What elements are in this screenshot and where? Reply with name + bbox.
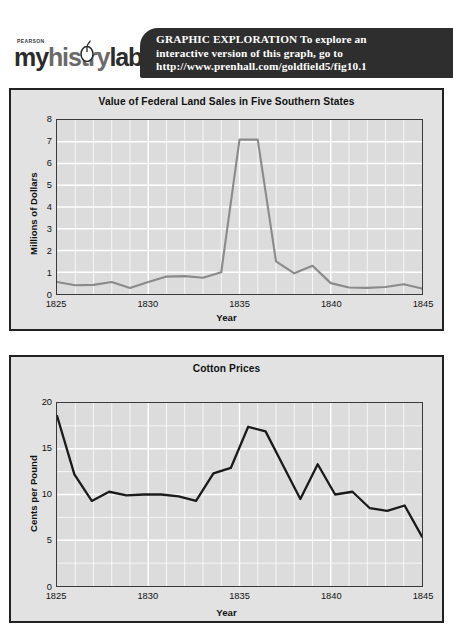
plot-canvas-land-sales <box>56 119 423 295</box>
plot-area-land-sales <box>56 119 423 295</box>
y-tick-label: 8 <box>18 115 52 124</box>
x-tick-label: 1830 <box>128 299 168 309</box>
y-tick-label: 10 <box>18 490 52 499</box>
x-tick-label: 1825 <box>36 299 76 309</box>
y-tick-label: 5 <box>18 181 52 190</box>
logo-my: my <box>14 43 48 71</box>
y-tick-label: 3 <box>18 225 52 234</box>
line-chart-svg-land-sales <box>57 120 422 294</box>
banner-line-1: GRAPHIC EXPLORATION To explore an <box>156 33 448 47</box>
x-tick-label: 1845 <box>403 299 443 309</box>
y-tick-label: 5 <box>18 536 52 545</box>
logo-lab: lab <box>109 43 142 71</box>
x-tick-label: 1835 <box>220 299 260 309</box>
x-tick-label: 1840 <box>311 591 351 601</box>
x-tick-label: 1825 <box>36 591 76 601</box>
header-banner-area: PEARSON myhistrylab ™ GRAPHIC EXPLORATIO… <box>0 0 453 88</box>
y-tick-label: 15 <box>18 444 52 453</box>
chart-panel-cotton-prices: Cotton Prices Cents per Pound 05101520 1… <box>9 355 444 623</box>
myhistorylab-logo: PEARSON myhistrylab ™ <box>10 38 150 76</box>
y-tick-label: 7 <box>18 137 52 146</box>
x-axis-label-cotton-prices: Year <box>11 607 442 618</box>
x-tick-label: 1840 <box>311 299 351 309</box>
plot-area-cotton-prices <box>56 402 423 587</box>
computer-mouse-icon <box>79 40 95 62</box>
y-tick-label: 1 <box>18 269 52 278</box>
line-chart-svg-cotton-prices <box>57 403 422 586</box>
y-tick-label: 4 <box>18 203 52 212</box>
banner-text: GRAPHIC EXPLORATION To explore an intera… <box>156 33 448 74</box>
x-tick-label: 1835 <box>220 591 260 601</box>
chart-title-cotton-prices: Cotton Prices <box>11 363 442 374</box>
y-tick-label: 6 <box>18 159 52 168</box>
x-tick-label: 1845 <box>403 591 443 601</box>
banner-line-2: interactive version of this graph, go to <box>156 47 448 61</box>
graphic-exploration-banner: GRAPHIC EXPLORATION To explore an intera… <box>140 28 453 78</box>
x-axis-label-land-sales: Year <box>11 312 442 323</box>
x-tick-label: 1830 <box>128 591 168 601</box>
banner-line-3[interactable]: http://www.prenhall.com/goldfield5/fig10… <box>156 60 448 74</box>
y-tick-label: 2 <box>18 247 52 256</box>
chart-title-land-sales: Value of Federal Land Sales in Five Sout… <box>11 96 442 107</box>
plot-canvas-cotton-prices <box>56 402 423 587</box>
y-tick-label: 20 <box>18 398 52 407</box>
chart-panel-land-sales: Value of Federal Land Sales in Five Sout… <box>9 88 444 331</box>
